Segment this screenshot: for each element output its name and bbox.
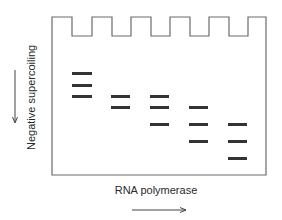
band bbox=[111, 95, 130, 98]
band bbox=[72, 72, 92, 75]
lane-5-bands bbox=[228, 123, 247, 160]
band bbox=[150, 95, 169, 98]
band bbox=[111, 106, 130, 109]
x-axis-label: RNA polymerase bbox=[0, 184, 282, 196]
right-arrow-icon bbox=[132, 208, 186, 213]
band bbox=[228, 123, 247, 126]
band bbox=[72, 95, 92, 98]
gel-diagram: Negative supercoiling RNA polymerase bbox=[0, 0, 282, 220]
lane-4-bands bbox=[189, 106, 208, 143]
lane-3-bands bbox=[150, 95, 169, 126]
lane-1-bands bbox=[72, 72, 92, 98]
band bbox=[228, 140, 247, 143]
band bbox=[228, 157, 247, 160]
band bbox=[150, 106, 169, 109]
down-arrow-icon bbox=[13, 70, 18, 123]
y-axis-label: Negative supercoiling bbox=[25, 45, 37, 150]
band bbox=[72, 84, 92, 87]
lane-2-bands bbox=[111, 95, 130, 109]
band bbox=[189, 106, 208, 109]
band bbox=[189, 140, 208, 143]
band bbox=[189, 123, 208, 126]
band bbox=[150, 123, 169, 126]
